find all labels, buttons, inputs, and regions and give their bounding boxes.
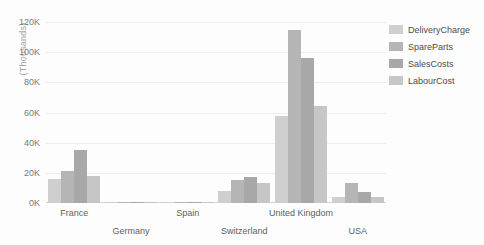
x-label-cell: Switzerland — [216, 204, 273, 245]
y-axis-tick-labels: 0K20K40K60K80K100K120K — [0, 0, 44, 245]
bar[interactable] — [244, 177, 257, 203]
bar-set — [162, 22, 214, 203]
legend-label: DeliveryCharge — [408, 25, 470, 35]
x-label-cell: Germany — [103, 204, 160, 245]
bar[interactable] — [162, 202, 175, 203]
bar[interactable] — [257, 183, 270, 203]
chart-legend: DeliveryChargeSparePartsSalesCostsLabour… — [389, 22, 484, 90]
bar-group — [159, 22, 216, 203]
bar[interactable] — [74, 150, 87, 203]
x-tick-label: Spain — [176, 208, 199, 218]
x-label-cell: USA — [329, 204, 386, 245]
legend-label: LabourCost — [408, 76, 455, 86]
x-tick-label: USA — [348, 226, 367, 236]
legend-label: SalesCosts — [408, 59, 454, 69]
bar-chart: (Thousands) 0K20K40K60K80K100K120K Franc… — [0, 0, 484, 245]
y-tick-label: 40K — [24, 138, 40, 148]
y-tick-label: 120K — [19, 17, 40, 27]
bar[interactable] — [188, 202, 201, 203]
legend-swatch — [389, 59, 403, 68]
bar-group — [273, 22, 330, 203]
bar-group — [329, 22, 386, 203]
bar[interactable] — [201, 202, 214, 203]
y-tick-label: 80K — [24, 77, 40, 87]
bar[interactable] — [231, 180, 244, 203]
legend-item[interactable]: LabourCost — [389, 73, 484, 88]
bar[interactable] — [314, 106, 327, 203]
legend-item[interactable]: SpareParts — [389, 39, 484, 54]
x-tick-label: United Kingdom — [269, 208, 333, 218]
bar-set — [218, 22, 270, 203]
legend-swatch — [389, 76, 403, 85]
legend-item[interactable]: DeliveryCharge — [389, 22, 484, 37]
plot-area — [46, 22, 386, 203]
bar-groups — [46, 22, 386, 203]
legend-swatch — [389, 25, 403, 34]
bar-set — [332, 22, 384, 203]
bar[interactable] — [61, 171, 74, 203]
bar-set — [48, 22, 100, 203]
bar[interactable] — [275, 116, 288, 203]
bar[interactable] — [301, 58, 314, 203]
bar[interactable] — [87, 176, 100, 203]
bar-set — [105, 22, 157, 203]
bar[interactable] — [144, 202, 157, 203]
bar[interactable] — [118, 202, 131, 203]
x-tick-label: Germany — [112, 226, 149, 236]
x-tick-label: Switzerland — [221, 226, 268, 236]
bar[interactable] — [332, 197, 345, 203]
bar[interactable] — [218, 191, 231, 203]
y-tick-label: 20K — [24, 168, 40, 178]
bar-group — [216, 22, 273, 203]
x-label-cell: Spain — [159, 204, 216, 245]
x-tick-label: France — [60, 208, 88, 218]
x-label-cell: United Kingdom — [273, 204, 330, 245]
legend-item[interactable]: SalesCosts — [389, 56, 484, 71]
bar[interactable] — [175, 202, 188, 203]
bar[interactable] — [48, 179, 61, 203]
bar[interactable] — [358, 192, 371, 203]
y-tick-label: 100K — [19, 47, 40, 57]
x-label-cell: France — [46, 204, 103, 245]
bar[interactable] — [105, 202, 118, 203]
legend-swatch — [389, 42, 403, 51]
bar[interactable] — [345, 183, 358, 203]
bar[interactable] — [131, 202, 144, 203]
bar-group — [103, 22, 160, 203]
bar[interactable] — [288, 30, 301, 203]
bar-set — [275, 22, 327, 203]
legend-label: SpareParts — [408, 42, 453, 52]
y-tick-label: 0K — [29, 198, 40, 208]
y-tick-label: 60K — [24, 108, 40, 118]
bar-group — [46, 22, 103, 203]
bar[interactable] — [371, 197, 384, 203]
x-axis-tick-labels: FranceGermanySpainSwitzerlandUnited King… — [46, 204, 386, 245]
